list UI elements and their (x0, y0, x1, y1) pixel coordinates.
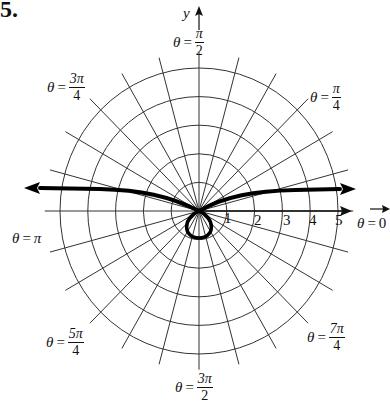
angle-label-pi-over-2: θ = π 2 (173, 27, 204, 58)
equals-sign: = (367, 215, 375, 232)
grid-radial-line (65, 211, 199, 290)
y-axis-label: y (183, 5, 190, 22)
theta-symbol: θ (307, 329, 314, 346)
grid-radial-line (90, 211, 199, 323)
problem-number: 5. (0, 0, 18, 23)
equals-sign: = (317, 329, 325, 346)
angle-label-7pi-over-4: θ = 7π 4 (307, 322, 345, 353)
fraction-denominator: 4 (333, 338, 340, 353)
angle-label-zero: θ = 0 (357, 215, 386, 232)
angle-label-3pi-over-4: θ = 3π 4 (47, 72, 85, 103)
theta-symbol: θ (46, 334, 53, 351)
curve-right-arrowhead (340, 183, 356, 195)
fraction-numerator: 7π (330, 321, 344, 336)
fraction: π 2 (195, 27, 204, 58)
fraction-numerator: π (333, 81, 340, 96)
fraction: 5π 4 (68, 327, 84, 358)
fraction: 3π 4 (69, 72, 85, 103)
theta-symbol: θ (357, 215, 364, 232)
fraction-denominator: 4 (333, 98, 340, 113)
equals-sign: = (56, 334, 64, 351)
polar-graph-figure: 5. y θ = π 2 θ = π 4 θ = 3π 4 θ = π θ = (0, 0, 390, 410)
grid-radial-line (50, 211, 199, 252)
fraction-numerator: 3π (70, 71, 84, 86)
curve-left-branch (40, 188, 199, 211)
radial-tick-1: 1 (224, 210, 232, 227)
theta-symbol: θ (175, 379, 182, 396)
grid-radial-line (199, 58, 239, 211)
x-axis-arrowhead (382, 205, 390, 213)
angle-value: π (34, 230, 42, 247)
radial-tick-2: 2 (254, 212, 262, 229)
angle-value: 0 (379, 215, 387, 232)
fraction-numerator: 5π (69, 326, 83, 341)
fraction: π 4 (332, 82, 341, 113)
fraction-denominator: 2 (196, 43, 203, 58)
fraction-denominator: 4 (73, 88, 80, 103)
theta-symbol: θ (47, 79, 54, 96)
equals-sign: = (183, 34, 191, 51)
radial-tick-3: 3 (283, 212, 291, 229)
fraction-numerator: 3π (198, 371, 212, 386)
equals-sign: = (320, 89, 328, 106)
fraction: 3π 2 (197, 372, 213, 403)
fraction-denominator: 4 (72, 343, 79, 358)
grid-radial-line (199, 211, 348, 252)
grid-radial-line (159, 211, 199, 364)
theta-symbol: θ (173, 34, 180, 51)
angle-label-pi: θ = π (12, 230, 41, 247)
theta-symbol: θ (310, 89, 317, 106)
grid-radial-line (159, 58, 199, 211)
grid-radial-line (199, 132, 333, 211)
fraction-denominator: 2 (201, 388, 208, 403)
angle-label-5pi-over-4: θ = 5π 4 (46, 327, 84, 358)
radial-tick-4: 4 (309, 212, 317, 229)
angle-label-pi-over-4: θ = π 4 (310, 82, 341, 113)
theta-symbol: θ (12, 230, 19, 247)
equals-sign: = (57, 79, 65, 96)
equals-sign: = (22, 230, 30, 247)
equals-sign: = (185, 379, 193, 396)
curve-left-arrowhead (24, 182, 40, 194)
fraction: 7π 4 (329, 322, 345, 353)
fraction-numerator: π (196, 26, 203, 41)
grid-radial-line (199, 211, 239, 364)
grid-radial-line (65, 132, 199, 211)
angle-label-3pi-over-2: θ = 3π 2 (175, 372, 213, 403)
radial-tick-5: 5 (335, 212, 343, 229)
